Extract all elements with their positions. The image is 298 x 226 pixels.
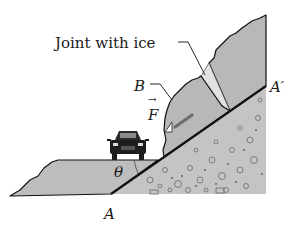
joint-label: Joint with ice xyxy=(53,34,156,52)
angle-theta-label: θ xyxy=(114,163,123,181)
point-b-label: B xyxy=(133,77,145,95)
point-a-label: A xyxy=(102,205,115,223)
force-label: F xyxy=(147,106,159,124)
car-icon xyxy=(107,131,149,160)
point-a-prime-label: A′ xyxy=(268,78,285,96)
force-vector-arrow: → xyxy=(148,94,157,105)
diagram-canvas: Joint with ice B → F θ A A′ xyxy=(0,0,298,226)
